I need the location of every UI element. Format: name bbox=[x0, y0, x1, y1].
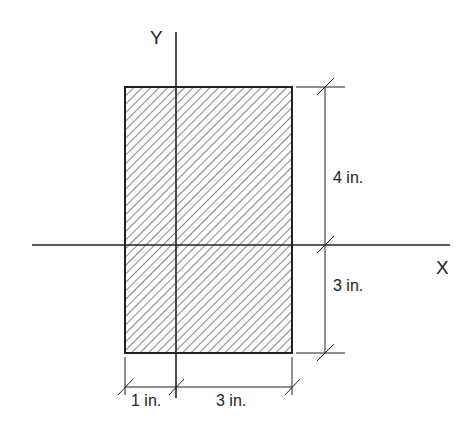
right-dimension-label: 3 in. bbox=[216, 392, 246, 409]
hatched-section bbox=[125, 87, 292, 353]
x-axis-label: X bbox=[436, 257, 449, 278]
horizontal-dimension bbox=[118, 357, 300, 395]
cross-section-diagram: Y X 4 in. 3 in. 1 in. 3 in. bbox=[0, 0, 473, 430]
y-axis-label: Y bbox=[150, 27, 163, 48]
lower-dimension-label: 3 in. bbox=[333, 277, 363, 294]
vertical-dimension bbox=[296, 78, 345, 361]
left-dimension-label: 1 in. bbox=[131, 392, 161, 409]
upper-dimension-label: 4 in. bbox=[333, 169, 363, 186]
